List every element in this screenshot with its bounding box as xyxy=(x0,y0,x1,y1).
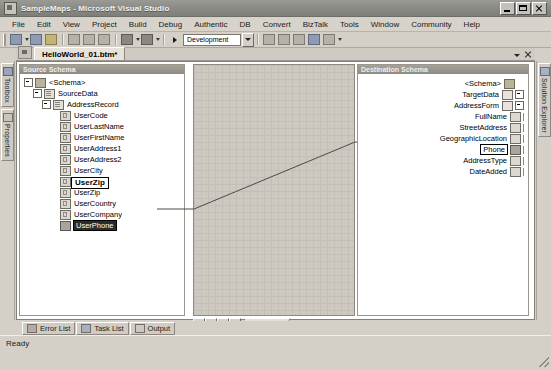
destination-tree-node-label: Phone xyxy=(480,144,508,155)
destination-tree-node[interactable]: GeographicLocation xyxy=(358,133,524,144)
source-tree-node[interactable]: UserFirstName xyxy=(20,132,184,143)
tree-expander-icon[interactable] xyxy=(515,90,524,99)
bottom-tab-output[interactable]: Output xyxy=(130,322,176,335)
schema-node-leaf-icon xyxy=(510,134,521,144)
sidebar-item-toolbox[interactable]: Toolbox xyxy=(1,63,14,107)
source-tree-node[interactable]: SourceData xyxy=(20,88,184,99)
destination-tree-node-label: AddressForm xyxy=(454,101,499,110)
destination-tree-node-label: DateAdded xyxy=(469,167,507,176)
menu-item-authentic[interactable]: Authentic xyxy=(188,19,233,30)
source-tree-node[interactable]: UserCompany xyxy=(20,209,184,220)
status-text: Ready xyxy=(2,338,442,349)
maximize-button[interactable] xyxy=(516,2,531,15)
tree-expander-icon[interactable] xyxy=(33,89,42,98)
object-browser-button[interactable] xyxy=(307,33,321,46)
source-tree-node-label: UserAddress1 xyxy=(74,144,122,153)
source-tree-node[interactable]: UserPhone xyxy=(20,220,184,231)
start-debugging-button[interactable] xyxy=(168,33,182,46)
toolbox-button[interactable] xyxy=(322,33,336,46)
tree-expander-icon[interactable] xyxy=(42,100,51,109)
source-tree-node[interactable]: AddressRecord xyxy=(20,99,184,110)
destination-tree-node-label: <Schema> xyxy=(465,79,501,88)
tab-helloworld-btm[interactable]: HelloWorld_01.btm* xyxy=(34,47,125,60)
active-files-dropdown-icon[interactable] xyxy=(514,54,520,57)
toolbar-separator xyxy=(115,34,117,45)
source-tree-node-label: AddressRecord xyxy=(67,100,119,109)
destination-tree-node[interactable]: Phone xyxy=(358,144,524,155)
solution-configuration-dropdown-icon[interactable] xyxy=(242,33,254,47)
menu-item-debug[interactable]: Debug xyxy=(153,19,189,30)
sidebar-item-properties[interactable]: Properties xyxy=(1,109,14,161)
toolbar-grip[interactable] xyxy=(3,34,6,46)
destination-tree-node[interactable]: TargetData xyxy=(358,89,524,100)
menu-item-db[interactable]: DB xyxy=(234,19,257,30)
destination-tree-node-label: GeographicLocation xyxy=(440,134,507,143)
source-tree-node-label: UserZip xyxy=(74,188,100,197)
redo-button[interactable] xyxy=(140,33,154,46)
minimize-button[interactable] xyxy=(500,2,515,15)
copy-button[interactable] xyxy=(82,33,96,46)
menu-item-project[interactable]: Project xyxy=(86,19,123,30)
schema-node-doc-icon xyxy=(502,101,513,111)
new-project-button[interactable] xyxy=(9,33,23,46)
menu-item-community[interactable]: Community xyxy=(405,19,457,30)
save-all-button[interactable] xyxy=(44,33,58,46)
destination-tree-node[interactable]: <Schema> xyxy=(358,78,524,89)
destination-tree-node[interactable]: FullName xyxy=(358,111,524,122)
destination-tree-node[interactable]: DateAdded xyxy=(358,166,524,177)
tree-expander-icon[interactable] xyxy=(24,78,33,87)
source-tree-node[interactable]: UserCode xyxy=(20,110,184,121)
source-tree-node-label: UserAddress2 xyxy=(74,155,122,164)
source-tree-node[interactable]: UserAddress1 xyxy=(20,143,184,154)
solution-explorer-button[interactable] xyxy=(277,33,291,46)
find-button[interactable] xyxy=(262,33,276,46)
menu-item-tools[interactable]: Tools xyxy=(334,19,365,30)
menu-item-view[interactable]: View xyxy=(57,19,86,30)
redo-dropdown-icon[interactable] xyxy=(156,38,160,41)
menu-item-file[interactable]: File xyxy=(6,19,31,30)
status-bar: Ready xyxy=(0,335,551,369)
mapper-grid-canvas[interactable] xyxy=(193,64,355,316)
schema-node-leaf-icon xyxy=(60,199,71,209)
toolbox-dropdown-icon[interactable] xyxy=(338,38,342,41)
menu-item-biztalk[interactable]: BizTalk xyxy=(297,19,334,30)
error-list-icon xyxy=(27,324,37,333)
tree-expander-icon[interactable] xyxy=(515,101,524,110)
source-tree-node[interactable]: UserCountry xyxy=(20,198,184,209)
bottom-tab-label: Error List xyxy=(40,324,70,333)
source-tree-node[interactable]: UserAddress2 xyxy=(20,154,184,165)
destination-tree-node[interactable]: StreetAddress xyxy=(358,122,524,133)
source-tree-node[interactable]: UserLastName xyxy=(20,121,184,132)
sidebar-item-solution-explorer[interactable]: Solution Explorer xyxy=(538,63,551,137)
source-tree-node-label: SourceData xyxy=(58,89,98,98)
window-controls xyxy=(500,2,549,15)
undo-button[interactable] xyxy=(120,33,134,46)
cut-button[interactable] xyxy=(67,33,81,46)
destination-schema-tree[interactable]: <Schema>TargetDataAddressFormFullNameStr… xyxy=(358,74,528,177)
bottom-tab-error-list[interactable]: Error List xyxy=(22,322,75,335)
resize-grip[interactable] xyxy=(539,357,549,367)
close-document-icon[interactable] xyxy=(524,51,532,59)
toolbox-icon xyxy=(3,67,13,76)
tree-connector-rail xyxy=(523,168,524,176)
destination-tree-node[interactable]: AddressType xyxy=(358,155,524,166)
menu-item-build[interactable]: Build xyxy=(123,19,153,30)
sidebar-item-label: Solution Explorer xyxy=(541,78,548,133)
destination-tree-node[interactable]: AddressForm xyxy=(358,100,524,111)
menu-item-edit[interactable]: Edit xyxy=(31,19,57,30)
source-tree-node[interactable]: UserCity xyxy=(20,165,184,176)
paste-button[interactable] xyxy=(97,33,111,46)
solution-configuration-select[interactable]: Development xyxy=(183,34,241,46)
properties-window-button[interactable] xyxy=(292,33,306,46)
bottom-tab-task-list[interactable]: Task List xyxy=(76,322,128,335)
schema-node-doc-icon xyxy=(53,100,64,110)
close-button[interactable] xyxy=(532,2,547,15)
source-schema-tree[interactable]: <Schema>SourceDataAddressRecordUserCodeU… xyxy=(20,74,184,231)
save-button[interactable] xyxy=(29,33,43,46)
document-window-icon xyxy=(18,46,32,59)
menu-item-convert[interactable]: Convert xyxy=(257,19,297,30)
menu-item-window[interactable]: Window xyxy=(365,19,405,30)
toolbar-separator xyxy=(62,34,64,45)
menu-item-help[interactable]: Help xyxy=(458,19,486,30)
source-tree-node[interactable]: <Schema> xyxy=(20,77,184,88)
